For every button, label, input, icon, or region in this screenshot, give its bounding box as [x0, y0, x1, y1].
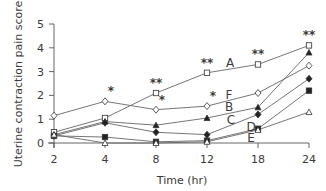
series-line-C [54, 79, 309, 136]
marker-open-triangle [306, 109, 312, 115]
series-line-F [54, 66, 309, 116]
chart-svg: 012345248121824 ***********AFBCDE Uterin… [0, 0, 326, 191]
marker-filled-diamond [306, 75, 312, 82]
marker-filled-diamond [153, 129, 159, 136]
marker-open-square [306, 43, 311, 48]
labels-group: ***********AFBCDE [108, 28, 316, 145]
y-tick-label: 5 [37, 18, 44, 31]
marker-open-diamond [204, 103, 210, 110]
marker-filled-triangle [306, 50, 312, 56]
marker-open-diamond [153, 106, 159, 113]
marker-filled-diamond [204, 131, 210, 138]
series-label-C: C [227, 113, 235, 127]
x-tick-label: 24 [302, 153, 316, 166]
series-line-E [54, 112, 309, 143]
y-tick-label: 0 [37, 137, 44, 150]
marker-open-diamond [51, 112, 57, 119]
y-tick-label: 3 [37, 66, 44, 79]
series-line-B [54, 53, 309, 135]
x-tick-label: 18 [251, 153, 265, 166]
marker-filled-diamond [255, 111, 261, 118]
x-tick-label: 4 [102, 153, 109, 166]
marker-open-diamond [102, 98, 108, 105]
series-line-D [54, 91, 309, 142]
axes: 012345248121824 [37, 18, 316, 166]
series-label-B: B [225, 100, 233, 114]
series-label-E: E [247, 131, 255, 145]
y-tick-label: 4 [37, 42, 44, 55]
y-tick-label: 2 [37, 89, 44, 102]
series-group [51, 43, 312, 146]
marker-open-diamond [306, 62, 312, 69]
significance-marker: ** [303, 28, 316, 42]
significance-marker: ** [150, 76, 163, 90]
significance-marker: * [159, 93, 166, 107]
x-tick-label: 2 [51, 153, 58, 166]
x-tick-label: 8 [153, 153, 160, 166]
y-axis-label: Uterine contraction pain score [12, 0, 25, 167]
marker-open-diamond [255, 90, 261, 97]
significance-marker: * [210, 89, 217, 103]
marker-filled-square [102, 134, 107, 139]
x-tick-label: 12 [200, 153, 214, 166]
marker-open-square [204, 70, 209, 75]
significance-marker: * [108, 84, 115, 98]
series-label-A: A [226, 56, 235, 70]
significance-marker: ** [252, 47, 265, 61]
marker-open-square [255, 62, 260, 67]
line-chart: 012345248121824 ***********AFBCDE Uterin… [0, 0, 326, 191]
marker-filled-square [306, 88, 311, 93]
y-tick-label: 1 [37, 113, 44, 126]
x-axis-label: Time (hr) [156, 174, 208, 187]
significance-marker: ** [201, 56, 214, 70]
